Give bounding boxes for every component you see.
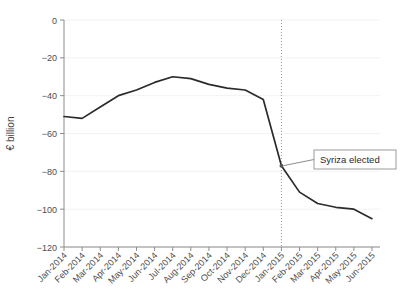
- y-tick-label: −60: [42, 129, 57, 139]
- chart-container: 0−20−40−60−80−100−120 Jan-2014Feb-2014Ma…: [0, 0, 407, 303]
- y-axis-label: € billion: [5, 117, 16, 151]
- y-tick-label: −100: [37, 205, 57, 215]
- annotation-marker-dot: [280, 164, 284, 168]
- y-tick-label: −20: [42, 53, 57, 63]
- y-tick-label: 0: [52, 16, 57, 26]
- annotation-label: Syriza elected: [320, 154, 380, 165]
- y-tick-label: −120: [37, 243, 57, 253]
- y-tick-label: −40: [42, 91, 57, 101]
- line-chart: 0−20−40−60−80−100−120 Jan-2014Feb-2014Ma…: [0, 0, 407, 303]
- y-axis-label-text: € billion: [5, 117, 16, 151]
- y-tick-label: −80: [42, 167, 57, 177]
